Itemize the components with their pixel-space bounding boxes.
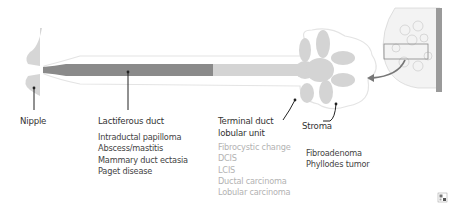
- stroma-conditions: Fibroadenoma Phyllodes tumor: [306, 148, 369, 171]
- terminal-duct-shape: [213, 64, 305, 76]
- condition-item: Mammary duct ectasia: [98, 155, 188, 166]
- breast-inset: [367, 8, 442, 92]
- condition-item: DCIS: [218, 153, 291, 164]
- condition-item: Paget disease: [98, 166, 188, 177]
- nipple-upper: [26, 28, 42, 66]
- condition-item: Ductal carcinoma: [218, 176, 291, 187]
- qr-icon: [438, 193, 447, 202]
- label-stroma: Stroma: [302, 120, 332, 132]
- condition-item: Phyllodes tumor: [306, 159, 369, 170]
- lactiferous-duct-conditions: Intraductal papilloma Abscess/mastitis M…: [98, 132, 188, 177]
- condition-item: Lobular carcinoma: [218, 187, 291, 198]
- condition-item: Abscess/mastitis: [98, 143, 188, 154]
- condition-item: Intraductal papilloma: [98, 132, 188, 143]
- tdlu-line1: Terminal duct: [218, 115, 273, 127]
- condition-item: Fibroadenoma: [306, 148, 369, 159]
- condition-item: LCIS: [218, 165, 291, 176]
- condition-item: Fibrocystic change: [218, 142, 291, 153]
- label-lactiferous-duct: Lactiferous duct: [98, 115, 164, 127]
- label-tdlu: Terminal duct lobular unit: [218, 115, 273, 139]
- tdlu-line2: lobular unit: [218, 127, 273, 139]
- nipple-lower: [25, 74, 40, 96]
- tdlu-conditions: Fibrocystic change DCIS LCIS Ductal carc…: [218, 142, 291, 198]
- lobule-shape: [295, 30, 355, 104]
- label-nipple: Nipple: [20, 115, 46, 127]
